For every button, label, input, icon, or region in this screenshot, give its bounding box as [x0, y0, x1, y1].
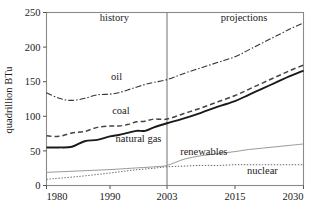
x-tick-label: 2030: [283, 191, 304, 202]
annotation-history: history: [100, 12, 130, 23]
annotation-projections: projections: [221, 12, 268, 23]
data-series-group: [47, 23, 304, 179]
y-tick-label: 0: [35, 180, 40, 191]
series-line-oil: [47, 23, 304, 101]
y-axis-title: quadrillion BTu: [3, 66, 14, 134]
plot-border: [47, 13, 304, 186]
x-tick-label: 2015: [225, 191, 246, 202]
y-tick-label: 100: [25, 111, 41, 122]
y-tick-label: 50: [30, 146, 41, 157]
plot-frame: [47, 13, 304, 186]
y-tick-label: 150: [25, 76, 41, 87]
chart-canvas: 05010015020025019801990200320152030 hist…: [0, 0, 316, 213]
annotation-oil: oil: [111, 71, 122, 82]
series-line-coal: [47, 65, 304, 136]
annotation-nuclear: nuclear: [247, 165, 278, 176]
y-tick-label: 200: [25, 42, 41, 53]
y-tick-label: 250: [25, 7, 41, 18]
annotation-coal: coal: [112, 105, 130, 116]
x-tick-label: 1990: [100, 191, 121, 202]
y-axis-title-group: quadrillion BTu: [3, 66, 14, 134]
energy-consumption-chart: 05010015020025019801990200320152030 hist…: [0, 0, 316, 213]
annotation-renewables: renewables: [180, 146, 227, 157]
x-tick-label: 2003: [157, 191, 178, 202]
x-tick-label: 1980: [47, 191, 68, 202]
annotation-natural-gas: natural gas: [116, 133, 162, 144]
